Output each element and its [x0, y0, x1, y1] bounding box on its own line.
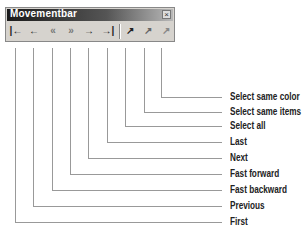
leader-line-fast-forward [70, 48, 71, 175]
select-same-color-button[interactable]: ↗ [158, 24, 174, 38]
leader-line-first [15, 48, 16, 223]
movementbar-toolbar: Movementbar × |← ← « » → →| ↗ ↗ ↗ [5, 7, 175, 42]
toolbar-title: Movementbar [10, 8, 77, 19]
leader-line-select-same-items-h [144, 112, 222, 113]
fast-forward-button[interactable]: » [63, 24, 79, 38]
label-select-all: Select all [230, 120, 266, 132]
toolbar-button-row: |← ← « » → →| ↗ ↗ ↗ [6, 22, 174, 41]
leader-line-select-all [125, 48, 126, 127]
label-fast-forward: Fast forward [230, 168, 279, 180]
label-fast-backward: Fast backward [230, 184, 287, 196]
leader-line-previous-h [33, 206, 222, 207]
next-button[interactable]: → [81, 24, 97, 38]
toolbar-separator [119, 24, 121, 39]
toolbar-titlebar[interactable]: Movementbar × [7, 9, 173, 21]
previous-button[interactable]: ← [26, 24, 42, 38]
fast-backward-button[interactable]: « [45, 24, 61, 38]
label-select-same-color: Select same color [230, 91, 300, 103]
leader-line-last-h [107, 142, 222, 143]
leader-line-select-same-color-h [161, 97, 222, 98]
label-last: Last [230, 136, 247, 148]
leader-line-fast-forward-h [70, 174, 222, 175]
leader-line-select-all-h [125, 126, 222, 127]
leader-line-first-h [15, 222, 222, 223]
leader-line-select-same-color [161, 48, 162, 98]
leader-line-last [107, 48, 108, 143]
last-button[interactable]: →| [100, 24, 116, 38]
select-same-items-button[interactable]: ↗ [140, 24, 156, 38]
close-icon[interactable]: × [162, 10, 171, 19]
leader-line-previous [33, 48, 34, 207]
leader-line-next-h [88, 158, 222, 159]
leader-line-select-same-items [144, 48, 145, 113]
label-next: Next [230, 152, 248, 164]
leader-line-fast-backward-h [52, 190, 222, 191]
label-select-same-items: Select same items [230, 106, 301, 118]
label-previous: Previous [230, 200, 265, 212]
leader-line-next [88, 48, 89, 159]
leader-line-fast-backward [52, 48, 53, 191]
select-all-button[interactable]: ↗ [122, 24, 138, 38]
first-button[interactable]: |← [8, 24, 24, 38]
label-first: First [230, 216, 248, 228]
